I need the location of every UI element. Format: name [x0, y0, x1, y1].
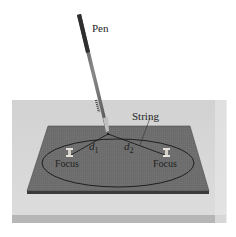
- focus-right-label: Focus: [153, 158, 177, 169]
- pen-label: Pen: [92, 22, 109, 34]
- string-label: String: [132, 110, 159, 122]
- ellipse-construction-diagram: Pen String d1 d2 Focus Focus: [0, 0, 236, 237]
- focus-left-label: Focus: [55, 158, 79, 169]
